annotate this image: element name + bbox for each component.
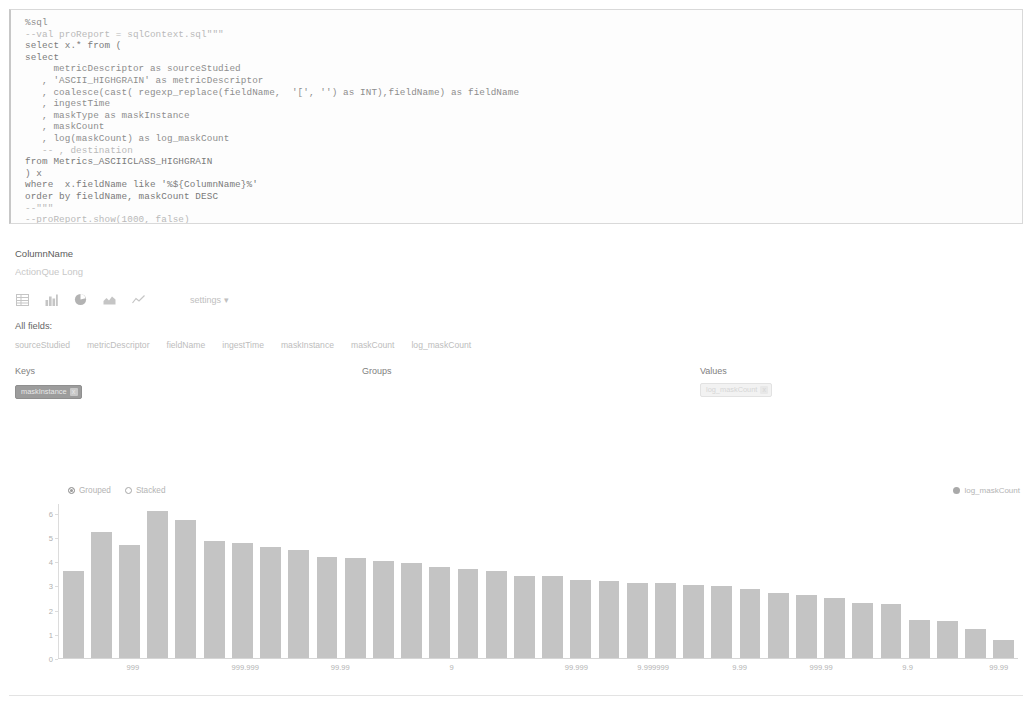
values-drop-zone[interactable]: log_maskCountx: [700, 378, 1000, 393]
bar-slot: [567, 504, 595, 658]
keys-drop-zone[interactable]: maskInstancex: [15, 380, 345, 395]
bar[interactable]: [655, 583, 676, 658]
y-tick-label: 1: [49, 630, 53, 639]
bar[interactable]: [570, 580, 591, 658]
bar-slot: [595, 504, 623, 658]
bar[interactable]: [91, 532, 112, 658]
legend-color-swatch: [953, 487, 960, 494]
bar[interactable]: [345, 558, 366, 658]
y-tick-label: 0: [49, 655, 53, 664]
bar[interactable]: [599, 581, 620, 658]
bar[interactable]: [965, 629, 986, 658]
x-tick-label: 99.99: [331, 663, 350, 672]
bar-slot: [426, 504, 454, 658]
bar[interactable]: [711, 586, 732, 658]
code-lines[interactable]: %sql--val proReport = sqlContext.sql"""s…: [25, 17, 1012, 224]
bar[interactable]: [683, 585, 704, 658]
bar-slot: [256, 504, 284, 658]
field-chip[interactable]: maskInstance: [281, 340, 334, 350]
remove-value-pill-icon[interactable]: x: [760, 386, 768, 394]
code-line: from Metrics_ASCIICLASS_HIGHGRAIN: [25, 156, 1012, 168]
bar[interactable]: [909, 620, 930, 659]
y-tick-mark: [55, 538, 58, 539]
visualization-toolbar[interactable]: settings ▾: [15, 292, 229, 307]
chart-mode-radios[interactable]: GroupedStacked: [68, 486, 165, 495]
settings-button[interactable]: settings ▾: [190, 295, 229, 305]
column-name-input[interactable]: [15, 264, 265, 279]
bar[interactable]: [288, 550, 309, 658]
bar-slot: [736, 504, 764, 658]
bar[interactable]: [542, 576, 563, 658]
field-chip[interactable]: maskCount: [351, 340, 394, 350]
bar[interactable]: [993, 640, 1014, 658]
bar[interactable]: [796, 595, 817, 658]
field-chip[interactable]: metricDescriptor: [87, 340, 150, 350]
bar[interactable]: [824, 598, 845, 658]
bar[interactable]: [627, 583, 648, 658]
sql-code-cell[interactable]: %sql--val proReport = sqlContext.sql"""s…: [9, 9, 1023, 224]
code-line: , 'ASCII_HIGHGRAIN' as metricDescriptor: [25, 75, 1012, 87]
bar[interactable]: [852, 603, 873, 658]
y-tick-mark: [55, 562, 58, 563]
bar-slot: [454, 504, 482, 658]
area-chart-icon[interactable]: [102, 292, 117, 307]
bar[interactable]: [175, 520, 196, 658]
field-chip[interactable]: fieldName: [167, 340, 206, 350]
bar[interactable]: [881, 604, 902, 658]
bar[interactable]: [486, 571, 507, 658]
field-chip[interactable]: sourceStudied: [15, 340, 70, 350]
radio-icon[interactable]: [68, 487, 75, 494]
pie-chart-icon[interactable]: [73, 292, 88, 307]
legend-label: log_maskCount: [964, 486, 1020, 495]
groups-drop-zone[interactable]: [362, 380, 682, 395]
bar[interactable]: [768, 593, 789, 658]
x-tick-label: 9.9: [902, 663, 913, 672]
bar[interactable]: [317, 557, 338, 658]
field-chip[interactable]: log_maskCount: [411, 340, 471, 350]
bar[interactable]: [458, 569, 479, 658]
bar[interactable]: [373, 561, 394, 658]
value-pill[interactable]: log_maskCountx: [700, 383, 772, 397]
code-line: , log(maskCount) as log_maskCount: [25, 133, 1012, 145]
bar-chart-icon[interactable]: [44, 292, 59, 307]
key-pill-label: maskInstance: [21, 387, 67, 396]
bar[interactable]: [937, 621, 958, 658]
remove-key-pill-icon[interactable]: x: [70, 388, 78, 396]
bar[interactable]: [401, 563, 422, 658]
code-line: --val proReport = sqlContext.sql""": [25, 29, 1012, 41]
chart-mode-label: Grouped: [79, 486, 111, 495]
chart-legend: log_maskCount: [953, 486, 1020, 495]
bar[interactable]: [204, 541, 225, 658]
bar[interactable]: [514, 576, 535, 658]
x-axis: [58, 658, 1018, 659]
all-fields-list[interactable]: sourceStudiedmetricDescriptorfieldNamein…: [15, 340, 471, 350]
code-line: %sql: [25, 17, 1012, 29]
x-tick-label: 9.99: [732, 663, 747, 672]
bar[interactable]: [740, 589, 761, 658]
key-pill[interactable]: maskInstancex: [15, 385, 82, 399]
bar-slot: [341, 504, 369, 658]
chart-mode-stacked[interactable]: Stacked: [125, 486, 166, 495]
bar-slot: [87, 504, 115, 658]
bar[interactable]: [232, 543, 253, 659]
y-tick-label: 3: [49, 582, 53, 591]
bar-slot: [651, 504, 679, 658]
x-tick-label: 999: [127, 663, 140, 672]
bar[interactable]: [63, 571, 84, 658]
chart-mode-grouped[interactable]: Grouped: [68, 486, 111, 495]
code-line: -- , destination: [25, 145, 1012, 157]
bar[interactable]: [119, 545, 140, 658]
y-tick-label: 5: [49, 533, 53, 542]
bar-slot: [905, 504, 933, 658]
line-chart-icon[interactable]: [131, 292, 146, 307]
bar-chart: GroupedStacked log_maskCount 6543210 999…: [0, 478, 1032, 693]
field-chip[interactable]: ingestTime: [222, 340, 264, 350]
radio-icon[interactable]: [125, 487, 132, 494]
bar[interactable]: [260, 547, 281, 658]
bar[interactable]: [147, 511, 168, 658]
table-icon[interactable]: [15, 292, 30, 307]
code-line: , maskCount: [25, 121, 1012, 133]
code-line: , coalesce(cast( regexp_replace(fieldNam…: [25, 87, 1012, 99]
code-line: select x.* from (: [25, 40, 1012, 52]
bar[interactable]: [429, 567, 450, 658]
